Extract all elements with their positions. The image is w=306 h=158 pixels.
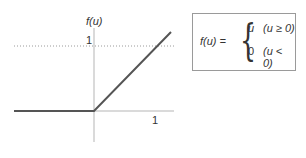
formula-lhs: f(u) = [200,35,226,47]
case-1-condition: (u ≥ 0) [263,22,295,34]
x-tick-label: 1 [152,114,158,126]
y-axis-label: f(u) [86,15,103,27]
formula-box: f(u) = { u (u ≥ 0) 0 (u < 0) [192,13,296,71]
case-2-condition: (u < 0) [263,45,295,69]
y-tick-label: 1 [86,34,92,46]
case-1-value: u [248,22,254,34]
case-2-value: 0 [248,45,254,57]
relu-curve [14,32,171,111]
